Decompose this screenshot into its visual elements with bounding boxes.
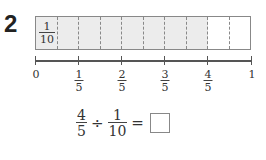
label-4-5: 45 [204,68,213,93]
tape-cell [101,17,123,49]
tick [251,56,252,65]
tick [207,56,208,65]
tape-cell [79,17,101,49]
denominator: 5 [161,80,170,93]
numerator: 1 [43,21,52,32]
equals-sign: = [131,114,144,132]
numerator: 1 [75,69,84,80]
tick [164,56,165,65]
denominator: 5 [75,80,84,93]
numerator: 1 [112,108,123,122]
number-line [35,60,252,62]
label-2-5: 25 [118,68,127,93]
right-fraction: 1 10 [108,108,128,138]
numerator: 4 [76,108,87,122]
tape-diagram: 1 10 [35,16,251,50]
left-fraction: 4 5 [76,108,87,138]
denominator: 5 [118,80,127,93]
tape-cell [187,17,209,49]
tape-cell [144,17,166,49]
divide-operator: ÷ [91,114,104,132]
denominator: 5 [204,80,213,93]
tape-cell [208,17,230,49]
question-number: 2 [4,10,17,38]
label-1: 1 [249,68,256,81]
tape-cell [230,17,251,49]
cell-fraction: 1 10 [39,21,55,45]
tape-cell [122,17,144,49]
denominator: 10 [108,122,128,138]
label-0: 0 [33,68,40,81]
numerator: 4 [204,69,213,80]
numerator: 3 [161,69,170,80]
equation: 4 5 ÷ 1 10 = [76,108,170,138]
tape-cell [58,17,80,49]
label-1-5: 15 [75,68,84,93]
tape-cell [165,17,187,49]
label-3-5: 35 [161,68,170,93]
numerator: 2 [118,69,127,80]
denominator: 5 [76,122,87,138]
tick [35,56,36,65]
tick [78,56,79,65]
tape-cell: 1 10 [36,17,58,49]
answer-box[interactable] [150,113,170,133]
tick [121,56,122,65]
denominator: 10 [39,32,55,45]
